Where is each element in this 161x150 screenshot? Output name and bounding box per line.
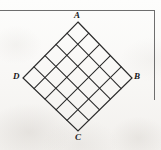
diamond-outline xyxy=(23,22,132,131)
vertex-label-a: A xyxy=(74,11,80,20)
vertex-label-c: C xyxy=(75,133,81,142)
vertex-label-d: D xyxy=(13,72,20,81)
figure-screenshot: A B C D xyxy=(0,0,161,150)
grid-lines xyxy=(34,33,121,120)
vertex-label-b: B xyxy=(134,72,140,81)
